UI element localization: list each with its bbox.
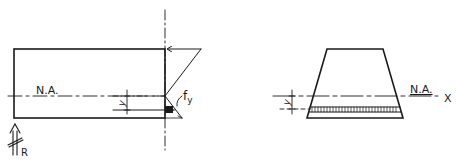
right-na-label: N.A. [410, 83, 433, 96]
hatched-strip [309, 107, 401, 112]
fy-block [165, 106, 173, 113]
right-y-label: y [280, 97, 292, 107]
trapezoid-section [307, 49, 403, 118]
right-section-figure: y N.A. X [273, 49, 452, 118]
fy-label: fy [183, 89, 193, 105]
left-beam-figure: N.A. y fy R [8, 10, 201, 158]
left-y-label: y [115, 98, 127, 108]
left-na-label: N.A. [36, 84, 59, 97]
reaction-label: R [21, 147, 28, 158]
fy-leader [177, 96, 182, 106]
diagram-canvas: N.A. y fy R y N.A. X [0, 0, 459, 166]
x-axis-label: X [444, 92, 452, 105]
